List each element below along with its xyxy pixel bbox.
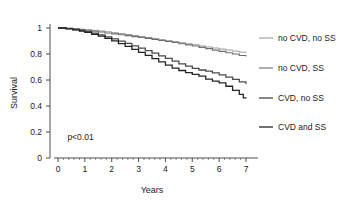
x-tick-label: 2 (109, 164, 114, 174)
legend-label-4: CVD and SS (278, 122, 327, 132)
y-tick-label: 0 (37, 153, 42, 163)
x-tick-label: 0 (56, 164, 61, 174)
legend-label-2: no CVD, SS (278, 63, 324, 73)
y-tick-label: 0.4 (30, 101, 42, 111)
legend-label-3: CVD, no SS (278, 93, 324, 103)
y-tick-label: 0.6 (30, 75, 42, 85)
y-tick-label: 1 (37, 23, 42, 33)
curves-group (58, 28, 246, 98)
annotations-group: p<0.01 (67, 132, 94, 142)
x-tick-label: 6 (217, 164, 222, 174)
x-tick-label: 5 (190, 164, 195, 174)
x-tick-label: 7 (244, 164, 249, 174)
survival-plot: 0123456700.20.40.60.81 p<0.01 no CVD, no… (0, 0, 356, 203)
chart-legend: no CVD, no SSno CVD, SSCVD, no SSCVD and… (259, 33, 336, 132)
y-tick-label: 0.2 (30, 127, 42, 137)
tick-labels-group: 0123456700.20.40.60.81 (30, 23, 248, 174)
x-tick-label: 1 (82, 164, 87, 174)
legend-label-1: no CVD, no SS (278, 33, 336, 43)
x-tick-label: 4 (163, 164, 168, 174)
x-tick-label: 3 (136, 164, 141, 174)
p-value-annotation: p<0.01 (67, 132, 94, 142)
y-tick-label: 0.8 (30, 49, 42, 59)
x-axis-title: Years (141, 185, 164, 195)
y-axis-title: Survival (9, 77, 19, 109)
survival-chart-figure: 0123456700.20.40.60.81 p<0.01 no CVD, no… (0, 0, 356, 203)
